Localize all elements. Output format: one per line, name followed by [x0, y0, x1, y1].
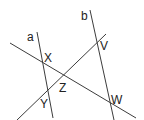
label-point-w: W	[111, 93, 123, 107]
label-point-z: Z	[59, 81, 66, 95]
label-line-a: a	[27, 30, 34, 44]
geometry-diagram: a b X V Z Y W	[0, 0, 144, 120]
label-line-b: b	[81, 9, 88, 23]
label-point-v: V	[100, 39, 108, 53]
label-point-y: Y	[40, 97, 48, 111]
transversal-yv	[17, 34, 106, 120]
label-point-x: X	[44, 51, 52, 65]
